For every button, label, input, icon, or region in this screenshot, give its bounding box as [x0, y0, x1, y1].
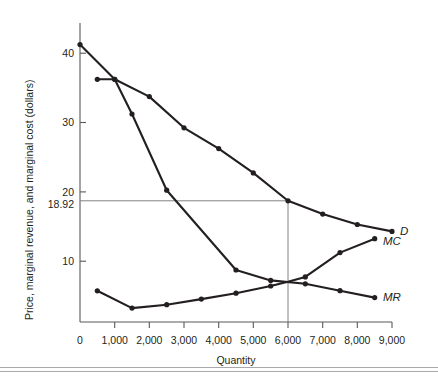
marginal-revenue-curve-label: MR	[383, 291, 401, 303]
x-tick-label-0: 0	[77, 334, 83, 346]
demand-curve	[80, 45, 392, 232]
marginal-cost-curve-points	[95, 236, 378, 311]
economics-line-chart: Price, marginal revenue, and marginal co…	[0, 0, 438, 386]
footer-rule-bottom	[0, 371, 438, 372]
chart-figure: Price, marginal revenue, and marginal co…	[0, 0, 438, 386]
y-tick-label-30: 30	[62, 116, 74, 128]
x-tick-label-3000: 3,000	[171, 334, 197, 346]
demand-curve-label: D	[400, 225, 408, 237]
y-axis-title: Price, marginal revenue, and marginal co…	[23, 80, 35, 320]
y-tick-label-20: 20	[62, 186, 74, 198]
x-tick-label-7000: 7,000	[310, 334, 336, 346]
x-tick-label-4000: 4,000	[206, 334, 232, 346]
y-tick-label-40: 40	[62, 47, 74, 59]
x-axis-title: Quantity	[216, 354, 256, 366]
marginal-revenue-curve	[97, 79, 374, 297]
x-tick-label-6000: 6,000	[275, 334, 301, 346]
y-tick-label-10: 10	[62, 255, 74, 267]
marginal-cost-curve	[97, 239, 374, 308]
x-tick-label-1000: 1,000	[102, 334, 128, 346]
x-tick-label-9000: 9,000	[379, 334, 405, 346]
marginal-cost-curve-label: MC	[383, 235, 402, 247]
marginal-revenue-curve-points	[95, 77, 378, 301]
footer-rule-top	[0, 367, 438, 368]
x-tick-label-2000: 2,000	[136, 334, 162, 346]
y-tick-label-18-92: 18.92	[48, 198, 74, 210]
x-tick-label-8000: 8,000	[344, 334, 370, 346]
x-tick-label-5000: 5,000	[240, 334, 266, 346]
demand-curve-points	[77, 42, 394, 234]
